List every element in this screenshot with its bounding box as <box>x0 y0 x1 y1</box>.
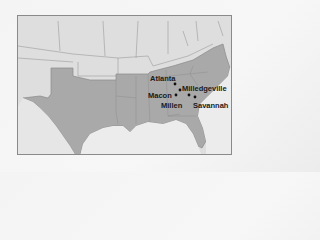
milledgeville-dot <box>179 89 182 92</box>
city-label-savannah: Savannah <box>193 102 228 110</box>
city-label-milledgeville: Milledgeville <box>182 85 227 93</box>
city-label-millen: Millen <box>161 102 182 110</box>
city-label-atlanta: Atlanta <box>150 75 175 83</box>
macon-dot <box>175 94 178 97</box>
millen-dot <box>188 94 191 97</box>
atlanta-dot <box>174 83 177 86</box>
city-label-macon: Macon <box>148 92 172 100</box>
savannah-dot <box>194 96 197 99</box>
map-frame: Atlanta Milledgeville Macon Millen Savan… <box>17 15 232 155</box>
